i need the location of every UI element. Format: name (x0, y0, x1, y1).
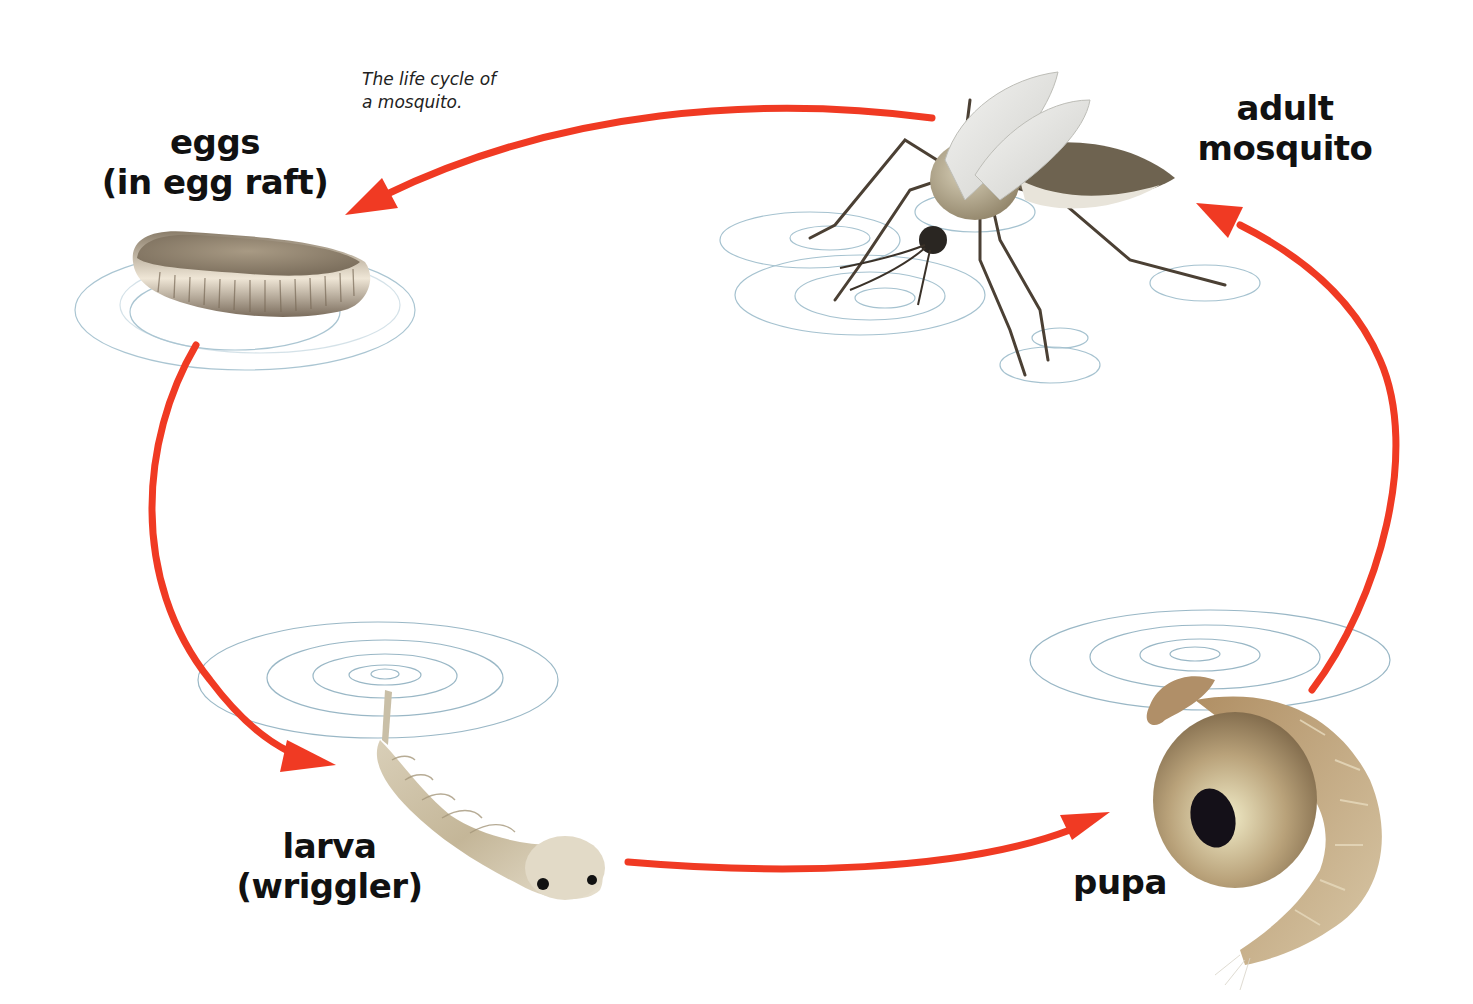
stage-label-adult: adult mosquito (1180, 88, 1390, 168)
stage-label-larva-line-2: (wriggler) (222, 866, 437, 906)
egg-raft-illustration (133, 231, 371, 317)
stage-label-larva: larva (wriggler) (222, 826, 437, 906)
pupa-illustration (1147, 676, 1382, 990)
stage-label-eggs: eggs (in egg raft) (100, 122, 330, 202)
arrow-larva-to-pupa (628, 812, 1110, 869)
stage-label-adult-line-1: adult (1180, 88, 1390, 128)
stage-label-eggs-line-2: (in egg raft) (100, 162, 330, 202)
water-ripples-larva (198, 622, 558, 738)
life-cycle-diagram: The life cycle of a mosquito. eggs (in e… (0, 0, 1473, 1004)
stage-label-larva-line-1: larva (222, 826, 437, 866)
caption-line-2: a mosquito. (362, 91, 562, 114)
arrow-adult-to-eggs (345, 108, 932, 215)
stage-label-pupa-line-1: pupa (1060, 862, 1180, 902)
arrowhead-icon (1060, 812, 1110, 840)
caption-line-1: The life cycle of (362, 68, 562, 91)
arrowhead-icon (1196, 203, 1243, 238)
arrowhead-icon (345, 178, 398, 215)
arrow-eggs-to-larva (152, 345, 336, 772)
arrow-pupa-to-adult (1196, 203, 1396, 690)
diagram-caption: The life cycle of a mosquito. (362, 68, 562, 114)
stage-label-pupa: pupa (1060, 862, 1180, 902)
arrowhead-icon (280, 740, 336, 772)
stage-label-eggs-line-1: eggs (100, 122, 330, 162)
adult-mosquito-illustration (810, 72, 1225, 375)
water-ripples-adult (720, 192, 1260, 383)
stage-label-adult-line-2: mosquito (1180, 128, 1390, 168)
